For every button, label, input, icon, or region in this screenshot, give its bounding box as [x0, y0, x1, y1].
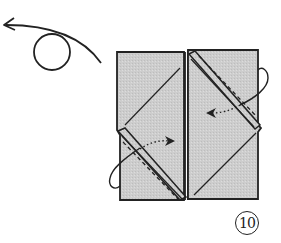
left-panel: [117, 52, 184, 200]
turn-over-arrow-icon: [6, 25, 101, 63]
turn-over-symbol: [4, 18, 101, 70]
step-number-badge: 10: [235, 211, 259, 235]
arrowhead-icon: [4, 18, 15, 30]
origami-diagram: [0, 0, 281, 243]
turn-over-circle-icon: [34, 34, 70, 70]
